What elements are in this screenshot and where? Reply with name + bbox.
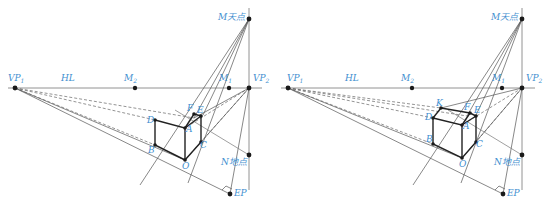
label-vp2: VP2 bbox=[526, 74, 542, 84]
label-a: A bbox=[463, 122, 470, 131]
label-e: E bbox=[474, 106, 481, 115]
label-n-ground-point: N地点 bbox=[494, 158, 520, 167]
label-vp1: VP1 bbox=[287, 74, 303, 84]
diagram-panel-left: VP1 HL M2 M1 VP2 M天点 N地点 EP D B A F E C … bbox=[0, 0, 273, 206]
label-c: C bbox=[476, 140, 483, 149]
label-d: D bbox=[147, 116, 154, 125]
label-b: B bbox=[148, 146, 155, 155]
label-vp1: VP1 bbox=[8, 74, 24, 84]
label-m2: M2 bbox=[124, 74, 137, 84]
label-f: F bbox=[464, 103, 470, 112]
label-o: O bbox=[182, 162, 189, 171]
label-m-sky-point: M天点 bbox=[491, 13, 518, 22]
label-m-sky-point: M天点 bbox=[218, 13, 245, 22]
perspective-construction-right bbox=[273, 0, 546, 206]
label-k: K bbox=[436, 99, 443, 108]
label-hl: HL bbox=[345, 74, 359, 83]
label-m1: M1 bbox=[492, 74, 505, 84]
label-hl: HL bbox=[61, 74, 75, 83]
label-n-ground-point: N地点 bbox=[221, 158, 247, 167]
perspective-construction-left bbox=[0, 0, 273, 206]
label-b: B bbox=[426, 135, 433, 144]
label-o: O bbox=[459, 160, 466, 169]
label-e: E bbox=[197, 106, 204, 115]
label-ep: EP bbox=[507, 189, 520, 198]
label-d: D bbox=[425, 113, 432, 122]
label-f: F bbox=[187, 104, 193, 113]
label-ep: EP bbox=[234, 189, 247, 198]
label-m2: M2 bbox=[401, 74, 414, 84]
diagram-panel-right: VP1 HL M2 M1 VP2 M天点 N地点 EP K D B A F E … bbox=[273, 0, 546, 206]
label-a: A bbox=[186, 125, 193, 134]
label-m1: M1 bbox=[219, 74, 232, 84]
label-c: C bbox=[200, 141, 207, 150]
label-vp2: VP2 bbox=[253, 74, 269, 84]
